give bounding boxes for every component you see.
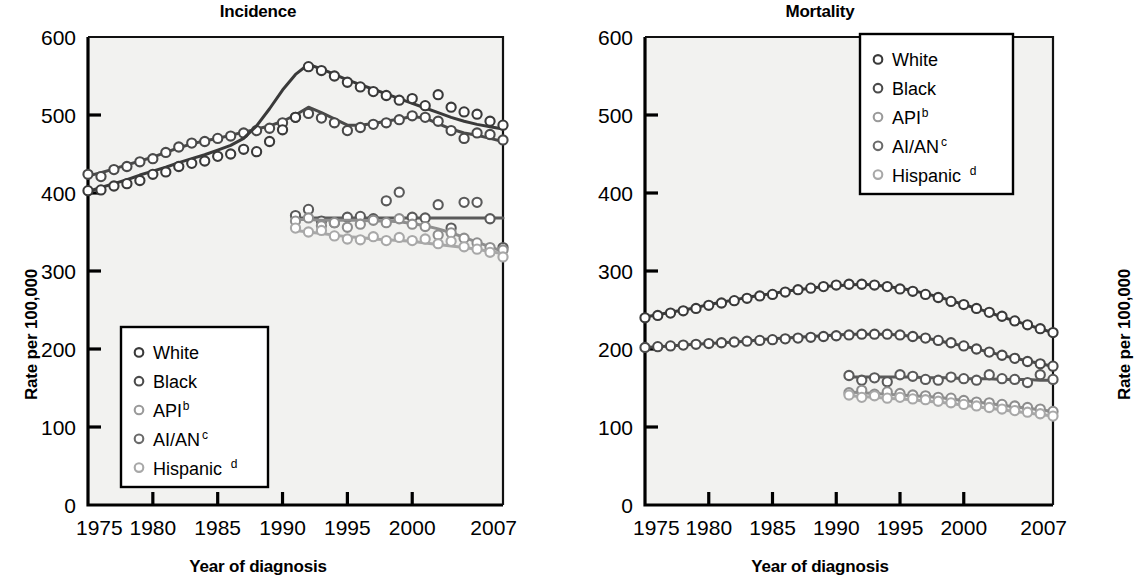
data-point [895,330,904,339]
data-point [485,214,494,223]
data-point [459,242,468,251]
data-point [434,239,443,248]
data-point [717,298,726,307]
data-point [704,339,713,348]
data-point [895,393,904,402]
data-point [768,335,777,344]
data-point [291,224,300,233]
data-point [200,137,209,146]
data-point [174,162,183,171]
x-axis-title-mortality: Year of diagnosis [550,557,1090,577]
y-axis-title-incidence: Rate per 100,000 [22,269,42,400]
data-point [472,198,481,207]
data-point [213,152,222,161]
data-point [1010,316,1019,325]
data-point [459,134,468,143]
data-point [959,300,968,309]
data-point [83,186,92,195]
panel-mortality: Mortality Rate per 100,000 Year of diagn… [537,0,1077,581]
data-point [252,147,261,156]
data-point [742,294,751,303]
data-point [356,235,365,244]
legend-item-label: Hispanic [153,459,222,479]
data-point [174,142,183,151]
data-point [304,227,313,236]
data-point [1048,375,1057,384]
data-point [161,148,170,157]
x-tick-label: 1990 [813,516,860,539]
data-point [304,213,313,222]
data-point [691,304,700,313]
legend-marker-icon [874,113,883,122]
data-point [844,330,853,339]
data-point [330,71,339,80]
data-point [304,62,313,71]
data-point [946,297,955,306]
y-tick-label: 0 [64,494,76,517]
data-point [408,94,417,103]
data-point [946,372,955,381]
data-point [959,374,968,383]
data-point [640,313,649,322]
data-point [304,109,313,118]
data-point [434,90,443,99]
data-point [356,220,365,229]
data-point [485,130,494,139]
data-point [985,348,994,357]
data-point [421,234,430,243]
data-point [972,344,981,353]
legend-item-superscript: c [941,135,947,149]
data-point [730,296,739,305]
legend-marker-icon [135,463,144,472]
data-point [187,138,196,147]
data-point [330,231,339,240]
data-point [226,149,235,158]
data-point [679,306,688,315]
panel-title-incidence: Incidence [0,2,528,22]
legend-marker-icon [874,84,883,93]
data-point [343,223,352,232]
data-point [317,226,326,235]
data-point [934,397,943,406]
data-point [704,301,713,310]
x-tick-label: 1975 [76,516,123,539]
data-point [434,117,443,126]
data-point [832,280,841,289]
legend-item-superscript: d [231,457,238,471]
data-point [1023,408,1032,417]
data-point [187,159,196,168]
data-point [819,332,828,341]
x-tick-label: 2007 [1020,516,1067,539]
data-point [997,404,1006,413]
data-point [278,125,287,134]
data-point [498,121,507,130]
data-point [472,245,481,254]
y-tick-label: 500 [598,104,633,127]
data-point [434,200,443,209]
data-point [109,165,118,174]
data-point [122,162,131,171]
legend-item-label: White [153,343,199,363]
data-point [908,394,917,403]
data-point [343,78,352,87]
data-point [96,185,105,194]
data-point [972,304,981,313]
data-point [985,308,994,317]
data-point [781,334,790,343]
data-point [653,311,662,320]
data-point [330,218,339,227]
data-point [369,87,378,96]
data-point [1023,378,1032,387]
data-point [717,338,726,347]
x-tick-label: 1985 [194,516,241,539]
data-point [844,280,853,289]
plot-mortality: 0100200300400500600197519801985199019952… [537,0,1077,581]
data-point [972,401,981,410]
legend-item-superscript: c [202,428,208,442]
data-point [265,124,274,133]
x-tick-label: 2000 [389,516,436,539]
data-point [640,343,649,352]
legend: WhiteBlackAPIbAI/ANcHispanicd [860,34,1013,194]
data-point [1010,354,1019,363]
data-point [408,220,417,229]
